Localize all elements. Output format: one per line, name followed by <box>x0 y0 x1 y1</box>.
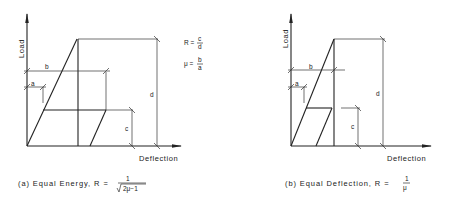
dimension-a-label: a <box>31 80 35 87</box>
svg-text:d: d <box>198 43 202 50</box>
svg-text:1: 1 <box>405 175 409 182</box>
dimension-b-label: b <box>45 63 49 70</box>
load-axis-label: Load <box>17 39 26 58</box>
svg-text:a: a <box>198 64 202 71</box>
panel-a-equal-energy: Load Deflection b a c d R = c d μ = b a … <box>17 14 203 193</box>
formula-mu: μ = b a <box>184 56 203 71</box>
svg-text:(b) Equal Deflection, R =: (b) Equal Deflection, R = <box>285 179 389 188</box>
deflection-axis-label: Deflection <box>387 154 426 163</box>
dimension-c-label: c <box>351 123 355 130</box>
panel-b-equal-deflection: Load Deflection b a c d (b) Equal Deflec… <box>281 14 431 192</box>
svg-text:b: b <box>198 56 202 63</box>
unloading-line <box>316 108 332 146</box>
svg-text:μ =: μ = <box>184 60 194 68</box>
unloading-line <box>90 110 106 146</box>
svg-text:2μ−1: 2μ−1 <box>123 185 138 193</box>
svg-text:μ: μ <box>403 184 407 192</box>
dimension-b-label: b <box>309 63 313 70</box>
dimension-a-label: a <box>295 80 299 87</box>
load-axis-label: Load <box>281 29 290 48</box>
caption-b: (b) Equal Deflection, R = 1 μ <box>285 175 410 192</box>
svg-text:c: c <box>198 35 202 42</box>
dimension-d-label: d <box>150 91 154 98</box>
elastic-response-line <box>27 39 77 146</box>
svg-text:1: 1 <box>126 175 130 182</box>
deflection-axis-label: Deflection <box>139 154 178 163</box>
diagram-canvas: Load Deflection b a c d R = c d μ = b a … <box>0 0 451 212</box>
dimension-c-label: c <box>125 125 129 132</box>
dimension-d-label: d <box>376 90 380 97</box>
elastic-response-line <box>291 39 334 146</box>
svg-text:R =: R = <box>184 39 195 46</box>
formula-r: R = c d <box>184 35 203 50</box>
svg-text:(a) Equal Energy, R =: (a) Equal Energy, R = <box>18 179 109 188</box>
caption-a: (a) Equal Energy, R = 1 2μ−1 <box>18 175 146 193</box>
